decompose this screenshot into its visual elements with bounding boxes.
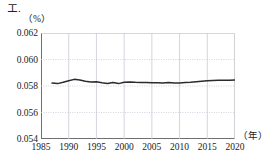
y-tick-label: 0.058 — [0, 81, 38, 91]
x-axis-tick-labels: 19851990199520002005201020152020 — [0, 142, 265, 156]
y-tick-label: 0.056 — [0, 108, 38, 118]
chart-canvas — [41, 33, 235, 139]
y-tick-label: 0.062 — [0, 28, 38, 38]
plot-area — [41, 33, 235, 139]
y-tick-label: 0.060 — [0, 55, 38, 65]
x-tick-label: 2020 — [218, 142, 252, 152]
x-axis-unit-label: （年） — [238, 131, 265, 141]
figure-container: エ. （%） （年） 0.0620.0600.0580.0560.054 198… — [0, 0, 265, 168]
gridlines — [41, 33, 235, 139]
